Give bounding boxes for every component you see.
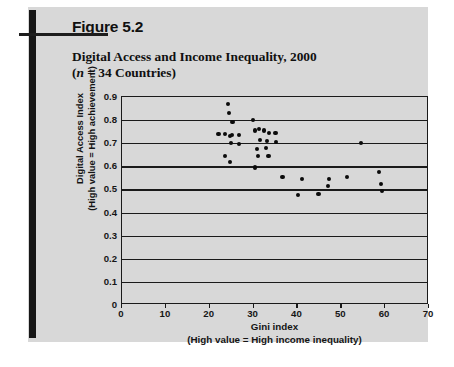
gridline-y-0.4: [122, 213, 427, 214]
x-tick-label-70: 70: [413, 308, 443, 319]
y-axis-ticks: 00.10.20.30.40.50.60.70.80.9: [72, 89, 117, 311]
y-tick-label-0.4: 0.4: [77, 206, 117, 217]
y-tick-label-0.6: 0.6: [77, 160, 117, 171]
data-point: [359, 141, 363, 145]
y-tick-label-0.9: 0.9: [77, 91, 117, 102]
gridline-y-0.3: [122, 236, 427, 237]
scatter-chart: Digital Access Index (High value = High …: [72, 89, 437, 334]
y-tick-label-0.5: 0.5: [77, 183, 117, 194]
data-point: [227, 111, 231, 115]
data-point: [237, 133, 241, 137]
data-point: [223, 132, 227, 136]
data-point: [345, 175, 349, 179]
data-point: [327, 177, 331, 181]
data-point: [256, 154, 260, 158]
x-tick-label-10: 10: [150, 308, 180, 319]
data-point: [262, 128, 266, 132]
data-point: [296, 193, 300, 197]
data-point: [273, 131, 277, 135]
y-tick-label-0.2: 0.2: [77, 252, 117, 263]
data-point: [266, 154, 270, 158]
figure-accent-rule-vertical: [29, 10, 36, 338]
data-point: [251, 118, 255, 122]
x-axis-label-main: Gini index: [121, 321, 428, 334]
y-tick-label-0.7: 0.7: [77, 137, 117, 148]
data-point: [216, 132, 220, 136]
data-point: [258, 138, 262, 142]
data-point: [316, 192, 320, 196]
y-tick-label-0.1: 0.1: [77, 275, 117, 286]
x-tick-label-50: 50: [325, 308, 355, 319]
data-point: [255, 147, 259, 151]
plot-area: [121, 96, 428, 304]
data-point: [229, 141, 233, 145]
data-point: [230, 133, 234, 137]
data-point: [228, 160, 232, 164]
figure-title-line-1: Digital Access and Income Inequality, 20…: [72, 49, 412, 65]
data-point: [267, 131, 271, 135]
sample-size-text: = 34 Countries): [84, 65, 176, 80]
data-point: [230, 120, 234, 124]
figure-card: Figure 5.2 Digital Access and Income Ine…: [28, 7, 428, 342]
x-tick-label-60: 60: [369, 308, 399, 319]
x-tick-label-20: 20: [194, 308, 224, 319]
gridline-y-0.6: [122, 166, 427, 167]
gridline-y-0.8: [122, 120, 427, 121]
data-point: [237, 142, 241, 146]
data-point: [326, 184, 330, 188]
y-tick-label-0.3: 0.3: [77, 229, 117, 240]
x-tick-label-30: 30: [238, 308, 268, 319]
data-point: [377, 170, 381, 174]
x-axis-label-sub: (High value = High income inequality): [121, 334, 428, 347]
x-tick-label-0: 0: [106, 308, 136, 319]
data-point: [380, 189, 384, 193]
data-point: [264, 146, 268, 150]
figure-title-line-2: (n = 34 Countries): [72, 65, 412, 81]
x-axis-label: Gini index (High value = High income ine…: [121, 321, 428, 346]
y-tick-label-0.8: 0.8: [77, 114, 117, 125]
x-tick-label-40: 40: [281, 308, 311, 319]
figure-accent-rule-horizontal: [19, 33, 108, 36]
data-point: [226, 102, 230, 106]
data-point: [253, 165, 257, 169]
data-point: [265, 139, 269, 143]
gridline-y-0.1: [122, 282, 427, 283]
data-point: [300, 177, 304, 181]
data-point: [257, 127, 261, 131]
data-point: [223, 154, 227, 158]
figure-title: Digital Access and Income Inequality, 20…: [72, 49, 412, 80]
data-point: [280, 175, 284, 179]
data-point: [379, 182, 383, 186]
gridline-y-0.2: [122, 259, 427, 260]
